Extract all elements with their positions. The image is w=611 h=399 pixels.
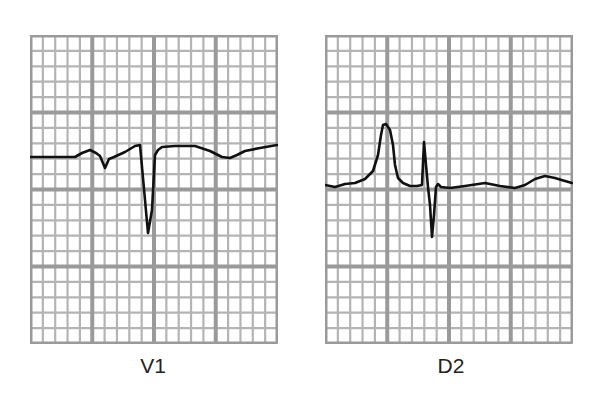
lead-label-d2: D2 (411, 354, 491, 378)
ecg-panel-d2 (325, 35, 573, 344)
ecg-grid-v1 (30, 35, 278, 344)
lead-label-v1: V1 (113, 354, 193, 378)
ecg-panel-v1 (30, 35, 278, 344)
ecg-grid-d2 (325, 35, 573, 344)
